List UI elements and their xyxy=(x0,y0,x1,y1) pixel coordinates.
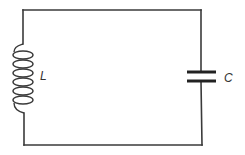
capacitor-label: C xyxy=(224,72,233,84)
inductor-icon xyxy=(13,44,33,113)
wire-right-lower xyxy=(201,81,202,145)
capacitor-icon xyxy=(187,72,216,81)
lc-circuit-diagram: L C xyxy=(0,0,245,155)
circuit-drawing xyxy=(0,0,245,155)
inductor-label: L xyxy=(40,70,47,82)
